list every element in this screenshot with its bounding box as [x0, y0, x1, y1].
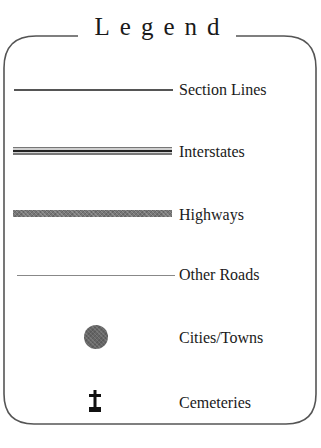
city-dot-icon [84, 325, 108, 349]
highway-symbol-icon [13, 210, 172, 217]
section-line-symbol-icon [14, 89, 173, 91]
legend-item-label: Interstates [179, 142, 245, 162]
legend-title: Legend [78, 12, 236, 42]
legend-item-cemeteries: Cemeteries [0, 388, 321, 418]
legend-item-label: Other Roads [179, 265, 259, 285]
interstate-symbol-icon [13, 147, 172, 155]
legend-item-highways: Highways [0, 200, 321, 230]
other-road-symbol-icon [17, 275, 175, 276]
legend-item-label: Highways [179, 205, 244, 225]
cemetery-cross-icon [88, 390, 102, 412]
legend-item-label: Cities/Towns [179, 328, 263, 348]
legend-item-cities-towns: Cities/Towns [0, 323, 321, 353]
legend-item-section-lines: Section Lines [0, 75, 321, 105]
legend-item-interstates: Interstates [0, 137, 321, 167]
legend-item-other-roads: Other Roads [0, 260, 321, 290]
legend-item-label: Section Lines [179, 80, 267, 100]
legend-item-label: Cemeteries [179, 393, 251, 413]
